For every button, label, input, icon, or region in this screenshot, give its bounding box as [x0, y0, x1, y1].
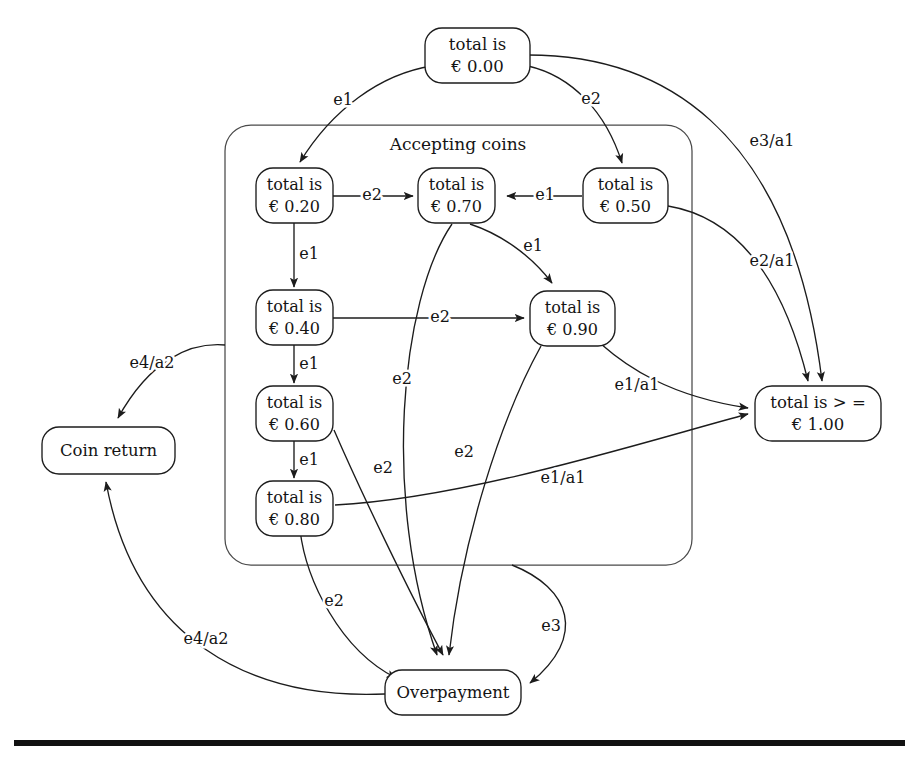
svg-text:€ 0.50: € 0.50 [599, 197, 651, 216]
svg-text:€ 0.80: € 0.80 [268, 510, 320, 529]
svg-text:€ 0.40: € 0.40 [268, 319, 320, 338]
transition-020-to-070-label: e2 e2 [362, 185, 382, 204]
svg-text:Overpayment: Overpayment [397, 683, 510, 702]
svg-text:e3/a1: e3/a1 [750, 131, 795, 150]
transition-070-to-overpayment-path[interactable] [403, 224, 452, 655]
svg-text:e2: e2 [454, 442, 474, 461]
transition-070-to-overpayment-label: e2 e2 [392, 369, 412, 388]
svg-text:total is: total is [545, 298, 601, 317]
svg-text:e2: e2 [392, 369, 412, 388]
state-total-090[interactable]: total is € 0.90 [530, 291, 615, 346]
svg-text:e2: e2 [324, 591, 344, 610]
svg-text:total is: total is [429, 175, 485, 194]
svg-text:e2: e2 [430, 307, 450, 326]
svg-text:e1: e1 [535, 185, 555, 204]
transition-090-to-overpayment-label: e2 e2 [454, 442, 474, 461]
svg-text:e2: e2 [581, 89, 601, 108]
state-total-040[interactable]: total is € 0.40 [256, 290, 333, 345]
state-machine-diagram: Accepting coins [0, 0, 916, 765]
svg-text:€ 0.20: € 0.20 [268, 197, 320, 216]
transition-000-to-100-label: e3/a1 e3/a1 [750, 131, 795, 150]
transition-060-to-overpayment-label: e2 e2 [373, 458, 393, 477]
svg-text:e1: e1 [299, 450, 319, 469]
transition-040-to-090-label: e2 e2 [430, 307, 450, 326]
transition-overpayment-to-coin-return-label: e4/a2 e4/a2 [184, 629, 229, 648]
svg-text:e2/a1: e2/a1 [750, 251, 795, 270]
transition-080-to-overpayment-path[interactable] [300, 530, 396, 678]
transition-070-to-090-label: e1 e1 [523, 236, 543, 255]
diagram-canvas: Accepting coins [0, 0, 916, 765]
svg-text:Coin return: Coin return [60, 441, 158, 460]
transition-020-to-040-label: e1 e1 [299, 244, 319, 263]
transition-000-to-050-path[interactable] [528, 66, 622, 163]
svg-text:e1: e1 [299, 354, 319, 373]
state-total-060[interactable]: total is € 0.60 [256, 386, 333, 441]
svg-text:€ 0.60: € 0.60 [268, 415, 320, 434]
svg-text:€ 0.00: € 0.00 [450, 57, 503, 76]
svg-text:total is: total is [598, 175, 654, 194]
transition-000-to-050-label: e2 e2 [581, 89, 601, 108]
svg-text:e1: e1 [299, 244, 319, 263]
state-total-080[interactable]: total is € 0.80 [256, 481, 333, 536]
state-total-070[interactable]: total is € 0.70 [418, 168, 495, 223]
transition-060-to-080-label: e1 e1 [299, 450, 319, 469]
svg-text:e2: e2 [362, 185, 382, 204]
transition-050-to-100-path[interactable] [668, 206, 808, 381]
svg-text:e1/a1: e1/a1 [615, 375, 660, 394]
state-total-000[interactable]: total is € 0.00 [425, 28, 530, 83]
transition-region-to-overpayment-label: e3 e3 [541, 616, 561, 635]
transition-overpayment-to-coin-return-path[interactable] [106, 482, 385, 694]
svg-text:€ 1.00: € 1.00 [791, 415, 844, 434]
svg-text:€ 0.70: € 0.70 [430, 197, 482, 216]
transition-080-to-100-label: e1/a1 e1/a1 [541, 468, 586, 487]
state-total-050[interactable]: total is € 0.50 [583, 168, 668, 223]
svg-text:e1/a1: e1/a1 [541, 468, 586, 487]
transition-region-to-coin-return-label: e4/a2 e4/a2 [130, 353, 175, 372]
transition-080-to-overpayment-label: e2 e2 [324, 591, 344, 610]
svg-text:e1: e1 [523, 236, 543, 255]
state-overpayment[interactable]: Overpayment [385, 670, 521, 715]
svg-text:total is: total is [449, 35, 506, 54]
transition-040-to-060-label: e1 e1 [299, 354, 319, 373]
svg-text:e4/a2: e4/a2 [184, 629, 229, 648]
transition-050-to-100-label: e2/a1 e2/a1 [750, 251, 795, 270]
transition-090-to-100-label: e1/a1 e1/a1 [615, 375, 660, 394]
state-total-ge-100[interactable]: total is > = € 1.00 [755, 386, 881, 441]
svg-text:total is: total is [267, 175, 323, 194]
state-coin-return[interactable]: Coin return [42, 427, 175, 474]
accepting-coins-region-label: Accepting coins [389, 134, 527, 154]
svg-text:total is: total is [267, 393, 323, 412]
transition-050-to-070-label: e1 e1 [535, 185, 555, 204]
bottom-divider-rule [14, 740, 905, 746]
state-total-020[interactable]: total is € 0.20 [256, 168, 333, 223]
svg-text:e2: e2 [373, 458, 393, 477]
svg-text:total is > =: total is > = [770, 393, 865, 412]
svg-text:total is: total is [267, 297, 323, 316]
svg-text:€ 0.90: € 0.90 [546, 320, 598, 339]
svg-text:e4/a2: e4/a2 [130, 353, 175, 372]
transition-000-to-020-label: e1 e1 [333, 90, 353, 109]
svg-text:total is: total is [267, 488, 323, 507]
svg-text:e3: e3 [541, 616, 561, 635]
transition-090-to-overpayment-path[interactable] [449, 346, 541, 655]
svg-text:e1: e1 [333, 90, 353, 109]
transition-080-to-100-path[interactable] [335, 414, 748, 505]
